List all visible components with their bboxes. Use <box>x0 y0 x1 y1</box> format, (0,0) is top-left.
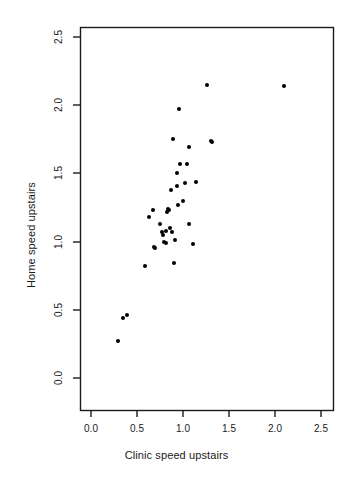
data-point <box>151 208 155 212</box>
x-tick-label: 0.0 <box>84 423 98 434</box>
data-point <box>185 162 189 166</box>
y-axis-title: Home speed upstairs <box>25 182 37 288</box>
data-point <box>169 188 173 192</box>
y-tick-label: 2.5 <box>53 30 64 44</box>
y-tick-label: 0.0 <box>53 371 64 385</box>
data-point <box>205 83 209 87</box>
data-point <box>116 339 120 343</box>
data-point <box>158 222 162 226</box>
x-tick-label: 2.0 <box>268 423 282 434</box>
data-point <box>181 199 185 203</box>
data-point <box>147 215 151 219</box>
data-point <box>183 181 187 185</box>
y-tick-label: 2.0 <box>53 98 64 112</box>
y-tick-label: 0.5 <box>53 303 64 317</box>
data-point <box>187 222 191 226</box>
data-point <box>175 184 179 188</box>
x-tick-label: 1.5 <box>222 423 236 434</box>
x-tick-label: 1.0 <box>176 423 190 434</box>
x-tick-label: 2.5 <box>314 423 328 434</box>
y-tick-label: 1.5 <box>53 166 64 180</box>
x-axis-title: Clinic speed upstairs <box>0 449 353 461</box>
y-tick-label: 1.0 <box>53 235 64 249</box>
data-point <box>194 180 198 184</box>
data-point <box>164 229 168 233</box>
scatter-plot-figure: 0.00.51.01.52.02.5 0.00.51.01.52.02.5 Cl… <box>0 0 353 481</box>
x-tick-label: 0.5 <box>130 423 144 434</box>
data-point <box>173 238 177 242</box>
data-point <box>170 230 174 234</box>
data-point <box>161 233 165 237</box>
